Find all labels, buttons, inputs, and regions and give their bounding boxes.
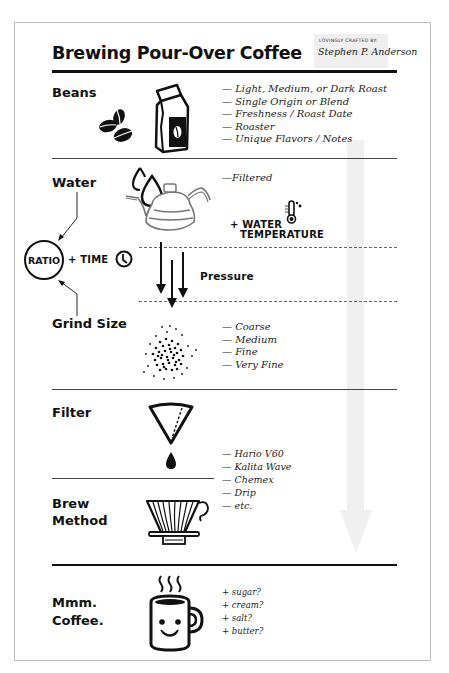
brew-method-note: — Chemex (222, 473, 291, 486)
coffee-bag-icon (153, 83, 191, 153)
section-label-water: Water (52, 174, 96, 191)
section-label-brew: Brew (52, 495, 89, 512)
smiling-mug-icon (148, 574, 210, 652)
ratio-circle: RATIO (24, 240, 64, 280)
ratio-label: RATIO (28, 255, 60, 266)
beans-divider (52, 158, 397, 159)
grind-notes: — Coarse — Medium — Fine — Very Fine (222, 321, 284, 371)
brew-method-note: — Kalita Wave (222, 460, 291, 473)
water-note: —Filtered (222, 172, 272, 185)
grind-note: — Medium (222, 334, 284, 347)
paper-filter-icon (148, 402, 198, 472)
section-label-method: Method (52, 512, 107, 529)
thermometer-icon (283, 200, 303, 224)
water-notes: —Filtered (222, 172, 272, 185)
kettle-icon (124, 176, 214, 234)
brew-method-notes: — Hario V60 — Kalita Wave — Chemex — Dri… (222, 447, 291, 512)
section-label-grind-size: Grind Size (52, 315, 127, 332)
clock-icon (115, 250, 133, 268)
coffee-note: + cream? (222, 599, 263, 612)
grind-note: — Very Fine (222, 359, 284, 372)
ratio-to-grind-connector (55, 280, 85, 316)
brew-method-note: — Hario V60 (222, 447, 291, 460)
section-label-coffee: Coffee. (52, 612, 104, 629)
page-title: Brewing Pour-Over Coffee (52, 43, 302, 63)
section-label-mmm: Mmm. (52, 594, 97, 611)
time-label: + TIME (68, 254, 108, 265)
section-label-beans: Beans (52, 84, 97, 101)
coffee-divider (52, 564, 397, 566)
beans-note: — Light, Medium, or Dark Roast (222, 83, 387, 96)
section-label-filter: Filter (52, 404, 91, 421)
coffee-beans-icon (97, 108, 137, 146)
coffee-note: + butter? (222, 625, 263, 638)
beans-note: — Roaster (222, 121, 387, 134)
credit-signature: Stephen P. Anderson (318, 46, 417, 57)
credit-badge: LOVINGLY CRAFTED BY: Stephen P. Anderson (314, 34, 388, 68)
beans-notes: — Light, Medium, or Dark Roast — Single … (222, 83, 387, 146)
credit-label: LOVINGLY CRAFTED BY: (319, 38, 378, 43)
grind-note: — Fine (222, 346, 284, 359)
coffee-note: + salt? (222, 612, 263, 625)
grind-note: — Coarse (222, 321, 284, 334)
beans-note: — Single Origin or Blend (222, 96, 387, 109)
pressure-label: Pressure (200, 270, 254, 282)
coffee-note: + sugar? (222, 586, 263, 599)
water-temperature-label-2: TEMPERATURE (240, 229, 324, 240)
beans-note: — Unique Flavors / Notes (222, 133, 387, 146)
water-to-ratio-connector (55, 192, 85, 242)
dripper-icon (145, 498, 215, 550)
coffee-grounds-icon (140, 324, 200, 384)
filter-divider (52, 478, 214, 479)
brew-method-note: — etc. (222, 499, 291, 512)
flow-arrow-icon (340, 140, 380, 555)
grind-divider (52, 389, 397, 390)
brew-method-note: — Drip (222, 486, 291, 499)
coffee-notes: + sugar? + cream? + salt? + butter? (222, 586, 263, 638)
down-arrows-icon (155, 242, 189, 310)
header-divider (52, 70, 397, 73)
beans-note: — Freshness / Roast Date (222, 108, 387, 121)
